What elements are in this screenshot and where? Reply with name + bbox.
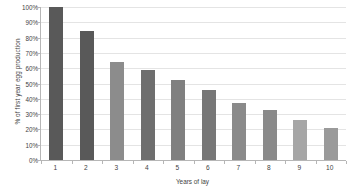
y-tickmark <box>38 114 41 115</box>
bar-slot <box>194 7 225 160</box>
bar-slot <box>224 7 255 160</box>
y-tick-label: 70% <box>25 49 38 56</box>
y-tick-label: 50% <box>25 80 38 87</box>
y-tick-label: 20% <box>25 126 38 133</box>
bar[interactable] <box>110 62 124 160</box>
bar-slot <box>102 7 133 160</box>
bar[interactable] <box>171 80 185 160</box>
x-tick-label: 1 <box>40 164 71 171</box>
x-tickmark <box>346 161 347 164</box>
bar-chart: % of first year egg production 0%10%20%3… <box>0 0 350 192</box>
bar-slot <box>133 7 164 160</box>
bar-slot <box>163 7 194 160</box>
y-tickmark <box>38 7 41 8</box>
bar[interactable] <box>293 120 307 160</box>
x-tick-label: 4 <box>132 164 163 171</box>
y-tickmark <box>38 38 41 39</box>
bar-slot <box>255 7 286 160</box>
x-axis-tick-labels: 12345678910 <box>40 164 345 171</box>
y-tick-label: 100% <box>22 4 38 11</box>
bar[interactable] <box>263 110 277 160</box>
y-tick-label: 60% <box>25 65 38 72</box>
bar[interactable] <box>232 103 246 160</box>
bar-slot <box>285 7 316 160</box>
x-tick-label: 9 <box>284 164 315 171</box>
y-tickmark <box>38 145 41 146</box>
x-tick-label: 10 <box>315 164 346 171</box>
bar[interactable] <box>49 7 63 160</box>
y-tick-label: 90% <box>25 19 38 26</box>
x-axis-title: Years of lay <box>40 178 345 185</box>
y-tickmark <box>38 129 41 130</box>
plot-area <box>40 7 346 161</box>
bar-slot <box>41 7 72 160</box>
y-tick-label: 30% <box>25 111 38 118</box>
y-tick-label: 80% <box>25 34 38 41</box>
y-tickmark <box>38 22 41 23</box>
bar[interactable] <box>202 90 216 160</box>
bar-slot <box>72 7 103 160</box>
y-tickmark <box>38 99 41 100</box>
y-tick-label: 0% <box>29 157 38 164</box>
x-tick-label: 7 <box>223 164 254 171</box>
bar[interactable] <box>80 31 94 160</box>
y-tickmark <box>38 68 41 69</box>
bar[interactable] <box>324 128 338 160</box>
y-tickmark <box>38 53 41 54</box>
y-tick-label: 40% <box>25 95 38 102</box>
bar-slot <box>316 7 347 160</box>
y-tick-label: 10% <box>25 141 38 148</box>
x-tick-label: 5 <box>162 164 193 171</box>
bars-container <box>41 7 346 160</box>
bar[interactable] <box>141 70 155 160</box>
x-tick-label: 6 <box>193 164 224 171</box>
x-tick-label: 3 <box>101 164 132 171</box>
y-axis-tick-labels: 0%10%20%30%40%50%60%70%80%90%100% <box>13 0 38 192</box>
y-tickmark <box>38 84 41 85</box>
x-tick-label: 8 <box>254 164 285 171</box>
x-tick-label: 2 <box>71 164 102 171</box>
